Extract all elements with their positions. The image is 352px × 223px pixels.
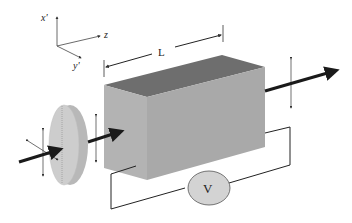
z-axis-line bbox=[57, 36, 100, 46]
x-axis-label: x' bbox=[40, 12, 48, 23]
length-arrow-right bbox=[175, 35, 221, 47]
length-label: L bbox=[158, 46, 165, 58]
output-beam bbox=[265, 59, 331, 108]
disk-face bbox=[49, 105, 79, 185]
length-arrow-left bbox=[106, 54, 152, 67]
y-axis-line bbox=[57, 46, 81, 58]
crystal-left-face bbox=[104, 85, 147, 180]
polarizer-disk bbox=[49, 105, 88, 185]
crystal-block bbox=[104, 55, 265, 180]
output-beam-arrow bbox=[265, 72, 331, 91]
y-axis-label: y' bbox=[72, 60, 80, 71]
z-axis-label: z bbox=[103, 29, 108, 40]
electro-optic-modulator-diagram: x' z y' L V bbox=[0, 0, 352, 223]
voltmeter-label: V bbox=[203, 181, 213, 196]
coordinate-axes: x' z y' bbox=[40, 12, 108, 71]
